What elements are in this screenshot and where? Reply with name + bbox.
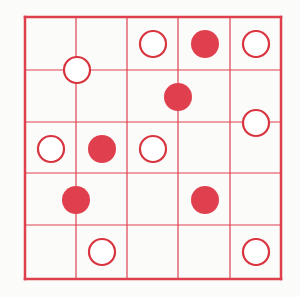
black-pearl-icon	[164, 83, 192, 111]
black-pearl-icon	[88, 135, 116, 163]
white-pearl-icon	[89, 239, 115, 265]
black-pearl-icon	[62, 186, 90, 214]
white-pearl-icon	[140, 136, 166, 162]
white-pearl-icon	[140, 31, 166, 57]
white-pearl-icon	[243, 110, 269, 136]
black-pearl-icon	[191, 30, 219, 58]
white-pearl-icon	[243, 239, 269, 265]
white-pearl-icon	[64, 57, 90, 83]
white-pearl-icon	[243, 31, 269, 57]
puzzle-board	[0, 0, 300, 297]
white-pearl-icon	[38, 136, 64, 162]
black-pearl-icon	[191, 186, 219, 214]
pearls	[38, 30, 269, 265]
